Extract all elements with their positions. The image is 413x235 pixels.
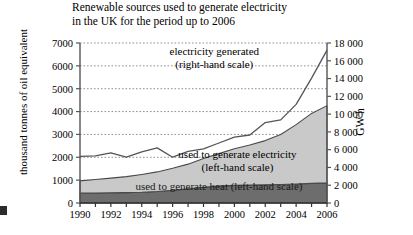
svg-text:6 000: 6 000 bbox=[334, 144, 358, 155]
svg-text:0: 0 bbox=[334, 198, 339, 209]
svg-text:8 000: 8 000 bbox=[334, 127, 358, 138]
svg-text:3000: 3000 bbox=[52, 129, 73, 140]
chart-svg: 01000200030004000500060007000 02 0004 00… bbox=[0, 0, 413, 235]
annotation-used-to-generate-electricity: used to generate electricity bbox=[178, 148, 297, 160]
svg-text:10 000: 10 000 bbox=[334, 109, 363, 120]
svg-text:4 000: 4 000 bbox=[334, 162, 358, 173]
svg-text:1990: 1990 bbox=[70, 209, 91, 220]
svg-text:0: 0 bbox=[68, 198, 73, 209]
svg-text:(right-hand scale): (right-hand scale) bbox=[175, 58, 253, 71]
svg-text:2002: 2002 bbox=[255, 209, 276, 220]
svg-text:4000: 4000 bbox=[52, 106, 73, 117]
plot-area: 01000200030004000500060007000 02 0004 00… bbox=[0, 0, 413, 235]
svg-text:5000: 5000 bbox=[52, 84, 73, 95]
svg-text:14 000: 14 000 bbox=[334, 73, 363, 84]
svg-text:2000: 2000 bbox=[52, 152, 73, 163]
svg-text:1996: 1996 bbox=[162, 209, 183, 220]
y-axis-left-ticks: 01000200030004000500060007000 bbox=[52, 38, 80, 209]
svg-text:2000: 2000 bbox=[224, 209, 245, 220]
svg-text:1998: 1998 bbox=[193, 209, 214, 220]
svg-text:2006: 2006 bbox=[317, 209, 338, 220]
annotation-used-to-generate-heat: used to generate heat (left-hand scale) bbox=[135, 180, 302, 193]
x-axis-ticks: 199019921994199619982000200220042006 bbox=[70, 203, 338, 220]
svg-text:2 000: 2 000 bbox=[334, 180, 358, 191]
svg-text:(left-hand scale): (left-hand scale) bbox=[202, 161, 274, 174]
annotation-electricity-generated: electricity generated bbox=[170, 45, 260, 57]
svg-text:6000: 6000 bbox=[52, 61, 73, 72]
svg-text:16 000: 16 000 bbox=[334, 56, 363, 67]
svg-text:1000: 1000 bbox=[52, 175, 73, 186]
svg-text:12 000: 12 000 bbox=[334, 91, 363, 102]
chart-figure: Renewable sources used to generate elect… bbox=[0, 0, 413, 235]
svg-text:7000: 7000 bbox=[52, 38, 73, 49]
svg-text:2004: 2004 bbox=[286, 209, 308, 220]
svg-text:1994: 1994 bbox=[131, 209, 153, 220]
y-axis-right-ticks: 02 0004 0006 0008 00010 00012 00014 0001… bbox=[327, 38, 363, 209]
svg-text:18 000: 18 000 bbox=[334, 38, 363, 49]
svg-text:1992: 1992 bbox=[100, 209, 121, 220]
